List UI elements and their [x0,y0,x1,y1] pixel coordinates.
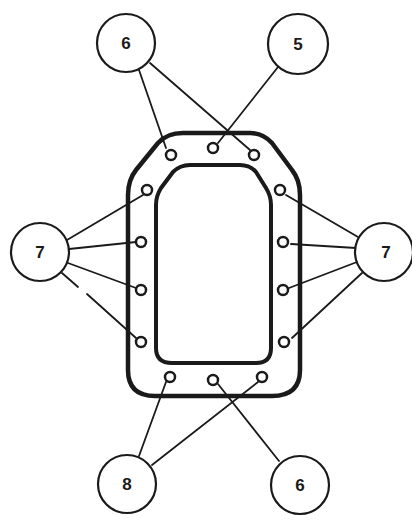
hole-left-2 [136,237,146,247]
hole-right-3 [278,285,288,295]
hole-top-left [166,150,176,160]
bolt-holes [136,143,289,385]
hole-left-1 [142,185,152,195]
gasket-diagram: 6 5 7 7 8 6 [0,0,412,531]
callout-label-7-left: 7 [35,243,44,262]
callout-label-8: 8 [122,475,131,494]
callout-label-6-bottom: 6 [295,476,304,495]
callout-label-6-top: 6 [121,34,130,53]
hole-bottom-center [208,375,218,385]
callout-label-5: 5 [293,35,302,54]
hole-bottom-left [165,372,175,382]
hole-top-right [249,150,259,160]
callout-label-7-right: 7 [381,243,390,262]
hole-right-1 [275,185,285,195]
gasket-outer-outline [128,133,300,396]
hole-top-center [208,143,218,153]
hole-right-4 [279,337,289,347]
leader-lines [62,63,362,465]
hole-left-4 [136,337,146,347]
hole-bottom-right [257,372,267,382]
hole-right-2 [278,237,288,247]
gasket-inner-opening [156,165,271,363]
hole-left-3 [136,285,146,295]
